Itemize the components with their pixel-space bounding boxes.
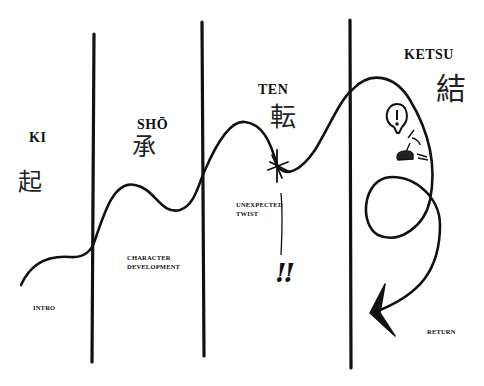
exclamation-marks: !!	[275, 258, 292, 288]
stage-kanji-ki: 起	[18, 170, 42, 194]
lightbulb-icon	[387, 104, 407, 133]
stage-kanji-ketsu: 結	[436, 74, 466, 104]
stage-caption-ketsu: RETURN	[427, 327, 456, 336]
divider-line-2	[202, 22, 204, 356]
stage-kanji-ten: 転	[270, 104, 296, 130]
stage-title-sho: SHŌ	[137, 117, 168, 133]
caption-line: UNEXPECTED	[236, 200, 283, 209]
stage-kanji-sho: 承	[132, 135, 156, 159]
stage-caption-sho: CHARACTER DEVELOPMENT	[127, 253, 180, 271]
twist-starburst-icon	[268, 150, 290, 182]
divider-line-3	[350, 20, 351, 368]
stage-title-ki: KI	[29, 130, 46, 146]
stage-caption-ten: UNEXPECTED TWIST	[236, 200, 283, 218]
divider-line-1	[92, 34, 94, 362]
character-figure-icon	[397, 130, 428, 160]
caption-line: DEVELOPMENT	[127, 262, 180, 271]
caption-line: TWIST	[236, 209, 283, 218]
stage-title-ten: TEN	[258, 82, 288, 98]
caption-line: CHARACTER	[127, 253, 180, 262]
stage-caption-ki: INTRO	[33, 303, 55, 312]
story-curve	[21, 78, 440, 312]
stage-title-ketsu: KETSU	[404, 47, 454, 63]
